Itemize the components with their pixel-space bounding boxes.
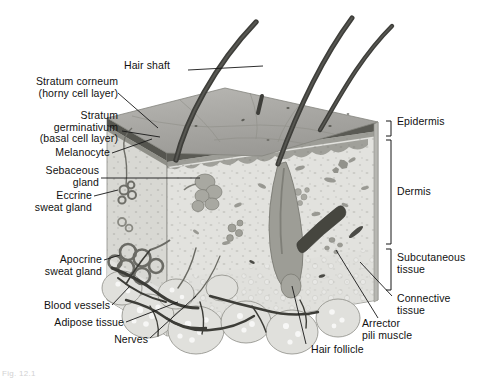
- label-nerves: Nerves: [0, 334, 148, 346]
- layer-brackets: [386, 121, 391, 290]
- figure-caption: Fig. 12.1: [2, 369, 36, 378]
- label-sebaceous-gland: Sebaceous gland: [0, 165, 99, 188]
- label-stratum-corneum: Stratum corneum (horny cell layer): [0, 76, 118, 99]
- label-apocrine-sweat-gland: Apocrine sweat gland: [0, 254, 102, 277]
- label-subcutaneous-tissue: Subcutaneous tissue: [397, 252, 465, 275]
- label-dermis: Dermis: [397, 186, 431, 198]
- label-hair-follicle: Hair follicle: [311, 344, 364, 356]
- label-eccrine-sweat-gland: Eccrine sweat gland: [0, 190, 92, 213]
- label-melanocyte: Melanocyte: [0, 147, 110, 159]
- label-adipose-tissue: Adipose tissue: [0, 317, 124, 329]
- label-arrector-pili-muscle: Arrector pili muscle: [362, 318, 412, 341]
- diagram-canvas: Hair shaft Stratum corneum (horny cell l…: [0, 0, 487, 384]
- label-connective-tissue: Connective tissue: [397, 293, 451, 316]
- label-stratum-germinativum: Stratum germinativum (basal cell layer): [0, 110, 118, 145]
- label-epidermis: Epidermis: [397, 116, 445, 128]
- label-hair-shaft: Hair shaft: [124, 60, 170, 72]
- skin-right-face: [374, 122, 378, 302]
- label-blood-vessels: Blood vessels: [0, 300, 110, 312]
